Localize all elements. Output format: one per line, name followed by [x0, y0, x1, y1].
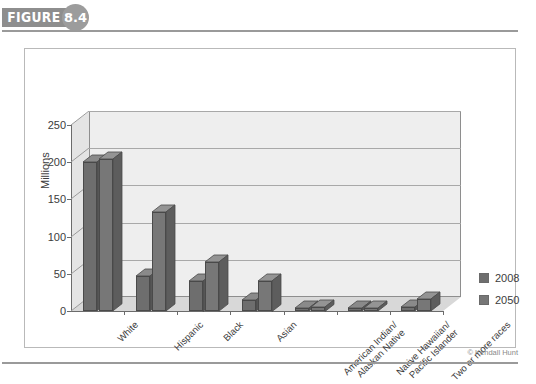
- y-tick-label: 100: [48, 231, 66, 243]
- y-tick-mark: [67, 162, 71, 163]
- gridline: [89, 223, 461, 224]
- x-tick-mark: [443, 311, 444, 315]
- figure-header-rule: [2, 30, 518, 32]
- legend-color-swatch: [479, 295, 489, 305]
- x-axis-category-label: Black: [221, 319, 245, 343]
- y-tick-label: 150: [48, 193, 66, 205]
- chart-legend: 20082050: [479, 271, 519, 315]
- bar: [258, 272, 272, 312]
- bar: [205, 253, 219, 311]
- bar: [136, 267, 150, 311]
- y-axis-title: Millions: [39, 152, 51, 189]
- bar-3d-faces: [99, 150, 123, 312]
- legend-label: 2008: [495, 272, 519, 284]
- chart-frame: 050100150200250 WhiteHispanicBlackAsianA…: [24, 48, 516, 348]
- x-tick-mark: [177, 311, 178, 315]
- x-tick-mark: [390, 311, 391, 315]
- legend-color-swatch: [479, 273, 489, 283]
- bar-3d-faces: [205, 253, 229, 312]
- bar: [189, 272, 203, 312]
- gridline: [89, 111, 461, 112]
- y-tick-mark: [67, 311, 71, 312]
- x-tick-mark: [124, 311, 125, 315]
- bar: [364, 299, 378, 311]
- legend-label: 2050: [495, 294, 519, 306]
- legend-item: 2008: [479, 271, 519, 284]
- bar: [401, 298, 415, 311]
- bar-3d-faces: [258, 272, 282, 313]
- bar: [83, 153, 97, 311]
- x-axis-category-label: White: [115, 319, 140, 344]
- figure-tag-label: FIGURE: [2, 8, 67, 27]
- gridline: [89, 185, 461, 186]
- x-tick-mark: [230, 311, 231, 315]
- bar-3d-faces: [417, 290, 441, 312]
- x-tick-mark: [337, 311, 338, 315]
- credit-text: © Kendall Hunt: [0, 348, 518, 357]
- bar-3d-faces: [152, 203, 176, 312]
- legend-item: 2050: [479, 293, 519, 306]
- bar: [152, 203, 166, 311]
- figure-number-badge: 8.4: [62, 4, 89, 31]
- bar: [99, 150, 113, 311]
- x-axis-category-label: Asian: [274, 319, 299, 344]
- bar: [348, 299, 362, 311]
- y-tick-label: 50: [54, 268, 66, 280]
- y-tick-mark: [67, 199, 71, 200]
- y-tick-mark: [67, 125, 71, 126]
- y-tick-depth-line: [71, 111, 89, 126]
- plot-area: 050100150200250 WhiteHispanicBlackAsianA…: [71, 111, 461, 311]
- bar-3d-faces: [364, 299, 388, 312]
- bar: [295, 299, 309, 311]
- bar: [311, 298, 325, 311]
- gridline: [89, 260, 461, 261]
- y-tick-label: 0: [60, 305, 66, 317]
- bar-3d-faces: [311, 298, 335, 312]
- figure-bottom-rule: [2, 362, 518, 364]
- y-tick-mark: [67, 274, 71, 275]
- y-tick-mark: [67, 237, 71, 238]
- y-tick-label: 250: [48, 119, 66, 131]
- bar: [417, 290, 431, 311]
- x-tick-mark: [284, 311, 285, 315]
- gridline: [89, 148, 461, 149]
- figure-header: FIGURE 8.4: [0, 6, 536, 36]
- bar: [242, 291, 256, 311]
